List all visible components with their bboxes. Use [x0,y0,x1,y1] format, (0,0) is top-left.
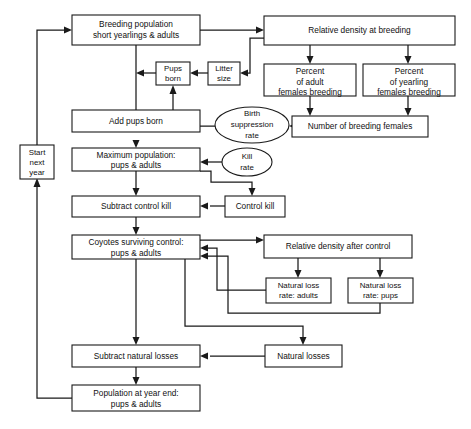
node-maximum-population[interactable]: Maximum population: pups & adults [72,148,200,171]
relative-density-breeding-label: Relative density at breeding [308,25,411,35]
edge-relative-density-to-litter [246,38,264,73]
kill-rate-line2: rate [240,163,254,172]
arrow-max-pop-to-subtract-control [133,188,140,196]
arrow-percent-adult-to-number-females [307,108,314,116]
pups-born-label-line2: born [165,74,181,83]
arrow-relative-density-to-percent-adult [307,56,314,64]
subtract-natural-losses-label: Subtract natural losses [94,351,178,361]
birth-suppression-line3: rate [245,131,259,140]
arrow-relative-density-to-litter [240,70,248,77]
percent-yearling-females-line3: females breeding [377,87,441,97]
flowchart-canvas: Breeding population short yearlings & ad… [0,0,471,429]
coyotes-surviving-line2: pups & adults [111,248,161,258]
arrow-nlr-adults-to-coyotes [200,245,208,252]
node-subtract-control-kill[interactable]: Subtract control kill [72,196,200,217]
arrow-litter-to-pups-born [190,70,198,77]
number-breeding-females-label: Number of breeding females [308,121,413,131]
arrow-subtract-control-to-coyotes [133,227,140,235]
arrow-natural-losses-to-subtract [200,353,208,360]
node-kill-rate[interactable]: Kill rate [222,148,272,176]
natural-loss-pups-line1: Natural loss [360,281,402,290]
arrow-coyotes-to-natural-losses [300,337,307,345]
percent-adult-females-line2: of adult [296,77,324,87]
node-litter-size[interactable]: Litter size [208,62,240,85]
pups-born-label-line1: Pups [164,64,182,73]
maximum-population-line2: pups & adults [111,160,161,170]
edge-nlr-adults-to-coyotes [206,248,266,290]
arrow-rel-density-after-to-nlr-pups [377,270,384,278]
node-coyotes-surviving-control[interactable]: Coyotes surviving control: pups & adults [72,235,200,259]
population-year-end-line1: Population at year end: [93,388,178,398]
start-next-year-line3: year [29,168,45,177]
percent-adult-females-line3: females breeding [278,87,342,97]
start-next-year-line1: Start [29,148,46,157]
arrow-coyotes-to-relative-density-after [256,237,264,244]
arrow-breeding-to-relative-density [256,27,264,34]
arrow-start-next-year-to-breeding [64,27,72,34]
percent-yearling-females-line1: Percent [395,66,424,76]
kill-rate-line1: Kill [242,152,253,161]
node-control-kill[interactable]: Control kill [225,196,285,217]
arrow-nlr-pups-to-coyotes [200,253,208,260]
natural-loss-adults-line1: Natural loss [278,281,320,290]
litter-size-label-line1: Litter [215,64,233,73]
node-breeding-population[interactable]: Breeding population short yearlings & ad… [72,15,200,45]
arrow-control-kill-to-subtract [200,203,208,210]
arrow-subtract-natural-to-population [133,377,140,385]
breeding-population-label-line1: Breeding population [99,19,173,29]
arrow-rel-density-after-to-nlr-adults [295,270,302,278]
node-natural-losses[interactable]: Natural losses [265,345,342,367]
birth-suppression-line1: Birth [244,109,260,118]
natural-loss-adults-line2: rate: adults [279,291,318,300]
arrow-percent-yearling-to-number-females [405,108,412,116]
node-start-next-year[interactable]: Start next year [20,145,54,179]
population-year-end-line2: pups & adults [111,399,161,409]
percent-yearling-females-line2: of yearling [390,77,429,87]
arrow-relative-density-to-percent-yearling [405,56,412,64]
node-natural-loss-rate-adults[interactable]: Natural loss rate: adults [266,278,331,303]
birth-suppression-line2: suppression [231,120,274,129]
maximum-population-line1: Maximum population: [97,150,176,160]
natural-loss-pups-line2: rate: pups [363,291,398,300]
node-add-pups-born[interactable]: Add pups born [72,110,200,132]
arrow-kill-rate-to-max-pop [200,159,208,166]
node-subtract-natural-losses[interactable]: Subtract natural losses [72,345,200,367]
litter-size-label-line2: size [217,74,232,83]
percent-adult-females-line1: Percent [296,66,325,76]
arrow-pups-born-to-trunk [136,70,144,77]
node-number-breeding-females[interactable]: Number of breeding females [292,116,428,137]
node-birth-suppression-rate[interactable]: Birth suppression rate [215,107,289,143]
node-percent-adult-females[interactable]: Percent of adult females breeding [264,64,356,97]
flowchart-diagram: Breeding population short yearlings & ad… [0,0,471,429]
node-relative-density-at-breeding[interactable]: Relative density at breeding [264,16,455,45]
arrow-max-pop-to-control-kill [249,188,256,196]
node-pups-born[interactable]: Pups born [156,62,190,85]
natural-losses-label: Natural losses [277,351,330,361]
node-layer: Breeding population short yearlings & ad… [20,15,455,411]
arrow-birth-suppression-to-pups-born [170,85,177,94]
coyotes-surviving-line1: Coyotes surviving control: [89,237,184,247]
node-population-at-year-end[interactable]: Population at year end: pups & adults [72,385,200,411]
edge-start-next-year-to-breeding [37,30,66,145]
subtract-control-kill-label: Subtract control kill [101,201,171,211]
node-percent-yearling-females[interactable]: Percent of yearling females breeding [363,64,455,97]
start-next-year-line2: next [30,158,46,167]
arrow-add-pups-to-max-pop [133,140,140,148]
node-natural-loss-rate-pups[interactable]: Natural loss rate: pups [348,278,413,303]
control-kill-label: Control kill [236,201,275,211]
add-pups-born-label: Add pups born [109,116,163,126]
breeding-population-label-line2: short yearlings & adults [93,30,179,40]
node-relative-density-after-control[interactable]: Relative density after control [264,235,412,258]
arrow-coyotes-to-subtract-natural [133,337,140,345]
edge-population-to-start-next-year [37,186,72,398]
relative-density-after-control-label: Relative density after control [286,241,391,251]
